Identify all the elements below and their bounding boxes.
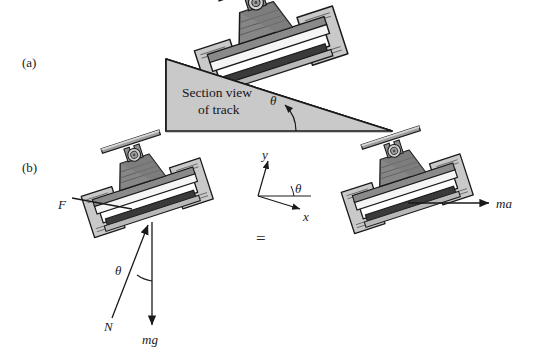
axis-x-vector <box>258 196 300 209</box>
track-caption-line1: Section view <box>182 85 252 100</box>
panel-a: (a) Section view of track θ <box>22 0 392 133</box>
axis-x-label: x <box>302 209 309 224</box>
equals-sign: = <box>256 229 266 248</box>
incline-angle-label: θ <box>270 93 277 108</box>
panel-b-label: (b) <box>22 160 37 175</box>
force-mg-label: mg <box>142 332 158 347</box>
free-body-diagram: F N mg θ <box>57 121 213 347</box>
coordinate-axes: y x θ <box>258 147 311 224</box>
vehicle-free-body <box>69 121 213 238</box>
panel-b: (b) F N mg θ y x <box>22 117 512 347</box>
inertia-ma-label: ma <box>496 196 512 211</box>
axis-angle-arc <box>291 186 294 196</box>
fbd-angle-label: θ <box>115 263 122 278</box>
kinetic-diagram: ma <box>329 117 512 234</box>
force-N-label: N <box>103 319 114 334</box>
axis-angle-label: θ <box>295 181 302 196</box>
panel-a-label: (a) <box>22 55 36 70</box>
axis-y-label: y <box>260 147 268 162</box>
physics-figure: (a) Section view of track θ (b) <box>0 0 533 358</box>
track-caption-line2: of track <box>198 102 240 117</box>
fbd-angle-arc <box>137 275 152 281</box>
vehicle-kinetic <box>329 117 473 234</box>
force-F-label: F <box>57 197 67 212</box>
axis-y-vector <box>258 161 268 196</box>
